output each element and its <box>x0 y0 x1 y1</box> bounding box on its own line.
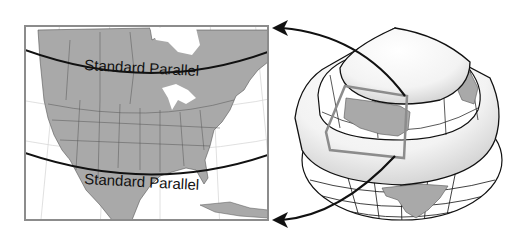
cone-apex-cap <box>340 28 470 104</box>
conic-projection-figure: Standard Parallel Standard Parallel <box>0 0 517 235</box>
map-panel: Standard Parallel Standard Parallel <box>20 20 290 230</box>
globe-panel <box>295 28 502 226</box>
